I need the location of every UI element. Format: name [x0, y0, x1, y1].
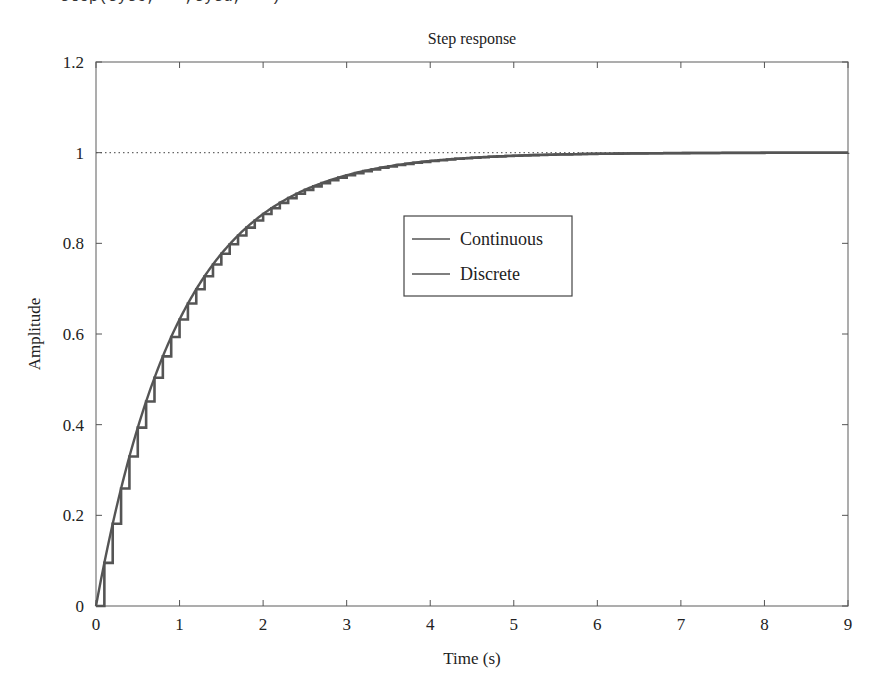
- x-tick-label: 6: [593, 615, 602, 634]
- y-tick-label: 1: [76, 144, 85, 163]
- y-tick-label: 0.4: [63, 416, 85, 435]
- step-response-chart: Step response 0123456789 00.20.40.60.811…: [0, 0, 878, 691]
- chart-title: Step response: [428, 30, 516, 48]
- x-tick-label: 8: [760, 615, 769, 634]
- y-tick-label: 0.6: [63, 325, 84, 344]
- y-tick-label: 0.8: [63, 234, 84, 253]
- x-tick-label: 3: [342, 615, 351, 634]
- y-tick-label: 0: [76, 597, 85, 616]
- x-tick-label: 1: [175, 615, 184, 634]
- x-tick-label: 0: [92, 615, 101, 634]
- y-tick-label: 1.2: [63, 53, 84, 72]
- axis-ticks: [96, 62, 848, 606]
- x-tick-label: 4: [426, 615, 435, 634]
- x-tick-label: 9: [844, 615, 853, 634]
- y-tick-label: 0.2: [63, 506, 84, 525]
- plot-frame: [96, 62, 848, 606]
- legend-label-discrete: Discrete: [460, 264, 520, 284]
- legend: Continuous Discrete: [404, 216, 572, 296]
- x-tick-label: 2: [259, 615, 268, 634]
- x-tick-label: 5: [510, 615, 519, 634]
- x-axis-label: Time (s): [443, 649, 500, 668]
- legend-label-continuous: Continuous: [460, 229, 543, 249]
- plot-area: 0123456789 00.20.40.60.811.2: [63, 53, 853, 634]
- y-tick-labels: 00.20.40.60.811.2: [63, 53, 85, 616]
- legend-box: [404, 216, 572, 296]
- x-tick-label: 7: [677, 615, 686, 634]
- x-tick-labels: 0123456789: [92, 615, 853, 634]
- y-axis-label: Amplitude: [25, 298, 44, 371]
